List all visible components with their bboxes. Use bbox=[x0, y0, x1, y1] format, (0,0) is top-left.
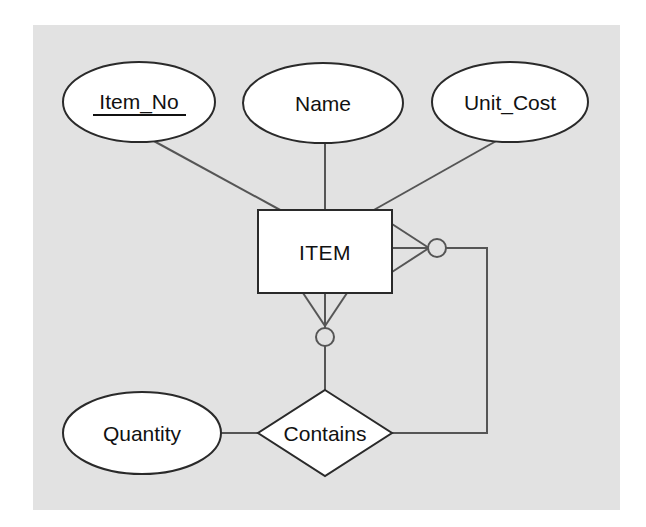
entity-label-item: ITEM bbox=[299, 241, 351, 264]
relationship-label-contains: Contains bbox=[284, 422, 367, 445]
attribute-label-unit-cost: Unit_Cost bbox=[464, 91, 556, 115]
er-diagram-svg: Item_No Name Unit_Cost ITEM Quantity Con… bbox=[0, 0, 646, 527]
attribute-node-item-no[interactable]: Item_No bbox=[63, 62, 215, 142]
entity-node-item[interactable]: ITEM bbox=[258, 210, 392, 293]
attribute-label-name: Name bbox=[295, 92, 351, 115]
optional-participation-circle-bottom bbox=[316, 328, 334, 346]
er-diagram-canvas: Item_No Name Unit_Cost ITEM Quantity Con… bbox=[0, 0, 646, 527]
attribute-node-name[interactable]: Name bbox=[243, 63, 403, 143]
attribute-label-quantity: Quantity bbox=[103, 422, 182, 445]
attribute-node-quantity[interactable]: Quantity bbox=[63, 392, 221, 474]
optional-participation-circle-right bbox=[428, 239, 446, 257]
attribute-label-item-no: Item_No bbox=[99, 90, 178, 114]
attribute-node-unit-cost[interactable]: Unit_Cost bbox=[432, 62, 588, 142]
